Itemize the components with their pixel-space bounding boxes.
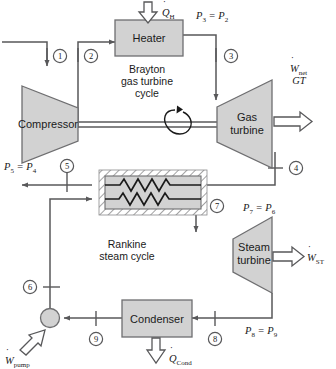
steam-turbine-label-line2: turbine: [237, 254, 271, 266]
state-point-2-label: 2: [89, 51, 93, 61]
brayton-caption-line1: Brayton: [129, 63, 165, 75]
p8p9-equals: =: [255, 325, 267, 336]
state-point-5: 5: [60, 159, 73, 172]
q-h-subscript: H: [170, 13, 175, 21]
thermodynamic-cycle-diagram: 1 2 3 4 5 6 7 8: [0, 0, 336, 369]
w-st-dot-accent: ˙: [308, 244, 311, 255]
brayton-caption-line2: gas turbine: [121, 75, 173, 87]
state-point-9: 9: [89, 332, 102, 345]
compressor-label: Compressor: [18, 118, 78, 130]
q-cond-subscript: Cond: [177, 359, 193, 367]
gas-turbine-label-line2: turbine: [230, 124, 264, 136]
p3p2-right-sub: 2: [225, 16, 229, 24]
state-point-1-label: 1: [58, 51, 62, 61]
heat-exchanger-component: [99, 170, 207, 215]
state-point-8-label: 8: [213, 334, 217, 344]
p3p2-equals: =: [206, 10, 218, 21]
state-point-2: 2: [84, 49, 97, 62]
schematic-canvas: 1 2 3 4 5 6 7 8: [0, 0, 336, 369]
w-net-gt-dot-accent: ˙: [291, 55, 294, 66]
condenser-label: Condenser: [130, 313, 184, 325]
gas-turbine-label-line1: Gas: [237, 111, 258, 123]
heater-label: Heater: [132, 32, 165, 44]
state-point-3: 3: [224, 49, 237, 62]
w-pump-subscript: pump: [14, 361, 30, 369]
state-point-7: 7: [210, 199, 223, 212]
brayton-caption-line3: cycle: [135, 87, 159, 99]
rankine-caption-line2: steam cycle: [99, 250, 155, 262]
p7p6-equals: =: [253, 202, 265, 213]
rankine-caption-line1: Rankine: [108, 238, 147, 250]
steam-turbine-label-line1: Steam: [238, 241, 270, 253]
w-net-gt-second-line: GT: [292, 75, 307, 86]
w-pump-dot-accent: ˙: [6, 347, 9, 358]
state-point-3-label: 3: [229, 51, 233, 61]
state-point-1: 1: [53, 49, 66, 62]
q-cond-dot-accent: ˙: [170, 345, 173, 356]
state-point-9-label: 9: [94, 334, 98, 344]
state-point-8: 8: [208, 332, 221, 345]
p8p9-right-sub: 9: [274, 331, 278, 339]
w-st-subscript: ST: [316, 258, 325, 266]
state-point-7-label: 7: [215, 201, 219, 211]
pump-component: [41, 309, 60, 328]
state-point-6-label: 6: [28, 282, 32, 292]
condenser-component: Condenser: [122, 300, 192, 337]
p5p4-equals: =: [14, 161, 26, 172]
state-point-6: 6: [23, 280, 36, 293]
heater-component: Heater: [115, 20, 183, 56]
p5p4-right-sub: 4: [33, 167, 37, 175]
state-point-4: 4: [289, 161, 302, 174]
state-point-5-label: 5: [65, 161, 69, 171]
q-h-dot-accent: ˙: [163, 0, 166, 10]
p7p6-right-sub: 6: [272, 208, 276, 216]
